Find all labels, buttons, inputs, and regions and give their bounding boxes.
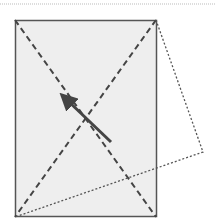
diagram-svg (0, 0, 215, 222)
diagram-canvas (0, 0, 215, 222)
